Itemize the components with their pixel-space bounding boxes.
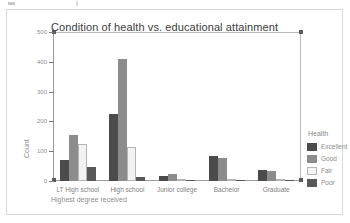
legend-title: Health [308,130,350,137]
y-tick-label: 300 [37,89,47,95]
artifact-mark-right [76,1,78,6]
legend-items: ExcellentGoodFairPoor [307,141,350,188]
bar [60,160,69,181]
legend-swatch [307,179,317,187]
x-category-label: High school [110,186,144,193]
y-tick-label: 500 [37,29,47,35]
legend-swatch [307,167,317,175]
y-tick-label: 100 [37,148,47,154]
bar [69,135,78,181]
y-tick-label: 200 [37,118,47,124]
legend-label: Fair [321,167,332,174]
bar-group: High school [103,32,153,181]
y-tick-label: 0 [44,178,47,184]
bar [118,59,127,181]
chart-frame: Condition of health vs. educational atta… [6,9,343,215]
legend-swatch [307,155,317,163]
bar-groups: LT High schoolHigh schoolJunior collegeB… [53,32,301,181]
bar [127,147,136,181]
y-axis-title: Count [23,139,30,158]
x-category-label: Junior college [157,186,197,193]
bar [236,180,245,181]
bar [227,179,236,181]
bar [159,176,168,181]
bar [258,170,267,181]
y-tick-label: 400 [37,59,47,65]
legend-label: Good [321,155,337,162]
x-category-label: Graduate [263,186,290,193]
bar-group: Graduate [251,32,301,181]
bar [78,144,87,181]
legend-item: Poor [307,177,350,188]
bar [136,177,145,181]
bar-group: LT High school [53,32,103,181]
bar [177,179,186,181]
artifact-mark-left [8,2,15,5]
bar [209,156,218,181]
x-category-label: Bachelor [214,186,240,193]
bar-group: Bachelor [202,32,252,181]
legend-item: Excellent [307,141,350,152]
y-tick-mark [49,181,54,182]
x-axis-title: Highest degree received [51,196,127,203]
bar-group: Junior college [152,32,202,181]
legend-item: Good [307,153,350,164]
bar [168,174,177,181]
legend-swatch [307,143,317,151]
bar [285,180,294,181]
bar [276,179,285,181]
bar [186,180,195,181]
plot-area: 0100200300400500 LT High schoolHigh scho… [53,32,301,181]
bar [267,171,276,181]
x-category-label: LT High school [56,186,99,193]
legend: Health ExcellentGoodFairPoor [307,130,350,189]
bar [109,114,118,181]
bar [218,158,227,181]
legend-item: Fair [307,165,350,176]
capture-artifacts [0,0,350,9]
bar [87,167,96,181]
legend-label: Poor [321,179,335,186]
legend-label: Excellent [321,143,347,150]
